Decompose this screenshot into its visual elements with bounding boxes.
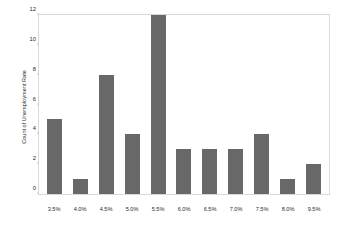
x-tick-label: 3.5% (48, 206, 61, 212)
bar-slot (171, 15, 197, 194)
x-label-slot: 5.0% (119, 197, 145, 215)
bar-slot (145, 15, 171, 194)
bar[interactable] (176, 149, 191, 194)
x-label-slot: 7.5% (249, 197, 275, 215)
x-tick-label: 4.0% (74, 206, 87, 212)
bar-slot (119, 15, 145, 194)
bar[interactable] (254, 134, 269, 194)
bar[interactable] (280, 179, 295, 194)
y-tick-label: 12 (30, 6, 36, 12)
x-tick-label: 6.0% (178, 206, 191, 212)
bar[interactable] (306, 164, 321, 194)
bar-chart: Count of Unemployment Rate 024681012 3.5… (0, 0, 338, 228)
bar[interactable] (228, 149, 243, 194)
x-label-slot: 8.0% (275, 197, 301, 215)
y-tick-label: 8 (33, 66, 36, 72)
bar-slot (223, 15, 249, 194)
x-axis-ticks: 3.5%4.0%4.5%5.0%5.5%6.0%6.5%7.0%7.5%8.0%… (38, 197, 330, 215)
y-tick-label: 0 (33, 185, 36, 191)
x-tick-label: 5.0% (126, 206, 139, 212)
bar[interactable] (202, 149, 217, 194)
x-tick-label: 6.5% (204, 206, 217, 212)
y-tick-label: 6 (33, 96, 36, 102)
y-tick-label: 10 (30, 36, 36, 42)
x-label-slot: 9.5% (301, 197, 327, 215)
bar-slot (300, 15, 326, 194)
x-tick-label: 7.5% (256, 206, 269, 212)
bar-series (39, 15, 329, 194)
x-label-slot: 6.0% (171, 197, 197, 215)
x-label-slot: 7.0% (223, 197, 249, 215)
bar[interactable] (73, 179, 88, 194)
bar[interactable] (125, 134, 140, 194)
bar[interactable] (47, 119, 62, 194)
x-tick-label: 5.5% (152, 206, 165, 212)
y-tick-label: 2 (33, 155, 36, 161)
x-label-slot: 5.5% (145, 197, 171, 215)
bar-slot (274, 15, 300, 194)
bar-slot (42, 15, 68, 194)
bar[interactable] (99, 75, 114, 194)
bar[interactable] (151, 15, 166, 194)
y-tick-label: 4 (33, 125, 36, 131)
bar-slot (197, 15, 223, 194)
bar-slot (94, 15, 120, 194)
x-tick-label: 9.5% (308, 206, 321, 212)
x-label-slot: 4.0% (67, 197, 93, 215)
bar-slot (68, 15, 94, 194)
x-tick-label: 4.5% (100, 206, 113, 212)
y-axis-label: Count of Unemployment Rate (21, 42, 27, 172)
plot-area: 024681012 (38, 14, 330, 195)
x-tick-label: 7.0% (230, 206, 243, 212)
x-label-slot: 4.5% (93, 197, 119, 215)
x-tick-label: 8.0% (282, 206, 295, 212)
x-label-slot: 3.5% (41, 197, 67, 215)
bar-slot (249, 15, 275, 194)
x-label-slot: 6.5% (197, 197, 223, 215)
